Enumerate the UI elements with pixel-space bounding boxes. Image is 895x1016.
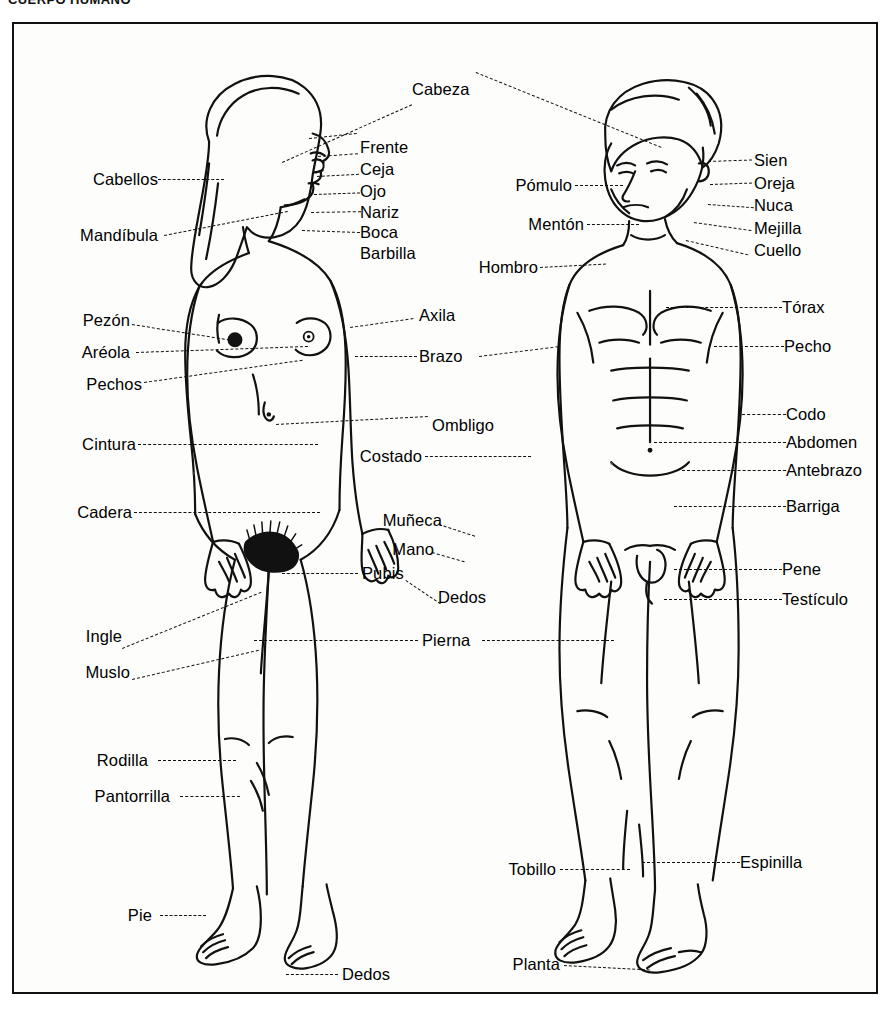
label-axila[interactable]: Axila (419, 307, 455, 324)
leader-torax (666, 307, 782, 308)
leader-cintura (138, 444, 318, 445)
label-planta[interactable]: Planta (513, 956, 560, 973)
label-mandibula[interactable]: Mandíbula (80, 227, 158, 244)
label-barriga[interactable]: Barriga (786, 498, 840, 515)
label-dedos-pie[interactable]: Dedos (342, 966, 390, 983)
leader-pierna-left (254, 640, 418, 641)
label-nuca[interactable]: Nuca (754, 197, 793, 214)
label-ojo[interactable]: Ojo (360, 183, 386, 200)
label-testiculo[interactable]: Testículo (782, 591, 848, 608)
leader-pubis (282, 573, 358, 574)
label-cabellos[interactable]: Cabellos (93, 171, 158, 188)
label-codo[interactable]: Codo (786, 406, 826, 423)
leader-rodilla (158, 760, 236, 761)
leader-antebrazo (682, 470, 786, 471)
label-cuello[interactable]: Cuello (754, 242, 801, 259)
label-pomulo[interactable]: Pómulo (515, 177, 572, 194)
label-pecho[interactable]: Pecho (784, 338, 831, 355)
label-pie[interactable]: Pie (128, 907, 152, 924)
label-muneca[interactable]: Muñeca (383, 512, 442, 529)
label-ingle[interactable]: Ingle (86, 628, 122, 645)
leader-codo (742, 414, 786, 415)
leader-pierna-right (482, 640, 614, 641)
leader-tobillo (560, 869, 630, 870)
label-barbilla[interactable]: Barbilla (360, 245, 416, 262)
label-cadera[interactable]: Cadera (77, 504, 132, 521)
diagram-frame: Cabeza Frente Ceja Ojo Nariz Boca Barbil… (12, 22, 878, 994)
label-nariz[interactable]: Nariz (360, 204, 399, 221)
label-torax[interactable]: Tórax (782, 299, 825, 316)
label-antebrazo[interactable]: Antebrazo (786, 462, 862, 479)
label-espinilla[interactable]: Espinilla (740, 854, 802, 871)
label-pechos[interactable]: Pechos (86, 376, 142, 393)
label-abdomen[interactable]: Abdomen (786, 434, 857, 451)
page-title: CUERPO HUMANO (8, 0, 131, 7)
label-costado[interactable]: Costado (360, 448, 422, 465)
label-pantorrilla[interactable]: Pantorrilla (95, 788, 170, 805)
leader-pomulo (575, 185, 623, 186)
leader-pecho (714, 346, 784, 347)
label-dedos-mano[interactable]: Dedos (438, 589, 486, 606)
paper-speck (610, 462, 613, 465)
leader-pantorrilla (180, 796, 240, 797)
label-mejilla[interactable]: Mejilla (754, 220, 801, 237)
leader-cadera (134, 512, 320, 513)
leader-brazo (355, 356, 417, 357)
label-frente[interactable]: Frente (360, 139, 408, 156)
label-ombligo[interactable]: Ombligo (432, 417, 494, 434)
label-cabeza[interactable]: Cabeza (412, 81, 469, 98)
leader-abdomen (654, 442, 786, 443)
label-pene[interactable]: Pene (782, 561, 821, 578)
label-sien[interactable]: Sien (754, 152, 787, 169)
label-muslo[interactable]: Muslo (85, 664, 130, 681)
leader-barriga (674, 506, 786, 507)
label-cintura[interactable]: Cintura (82, 436, 136, 453)
label-rodilla[interactable]: Rodilla (97, 752, 148, 769)
leader-cabellos (158, 179, 224, 180)
label-pubis[interactable]: Pubis (362, 565, 404, 582)
paper-speck (192, 472, 195, 475)
leader-dedos-pie (286, 974, 338, 975)
label-brazo[interactable]: Brazo (419, 348, 463, 365)
label-mano[interactable]: Mano (392, 541, 434, 558)
label-oreja[interactable]: Oreja (754, 175, 795, 192)
leader-costado (425, 456, 531, 457)
label-ceja[interactable]: Ceja (360, 161, 394, 178)
label-tobillo[interactable]: Tobillo (509, 861, 556, 878)
label-pierna[interactable]: Pierna (422, 632, 470, 649)
label-areola[interactable]: Aréola (82, 344, 130, 361)
leader-menton (587, 224, 639, 225)
label-hombro[interactable]: Hombro (479, 259, 538, 276)
leader-espinilla (642, 862, 740, 863)
label-boca[interactable]: Boca (360, 224, 398, 241)
leader-pie (160, 915, 206, 916)
leader-pene (674, 569, 782, 570)
leader-testiculo (664, 599, 782, 600)
label-pezon[interactable]: Pezón (83, 312, 130, 329)
label-menton[interactable]: Mentón (528, 216, 584, 233)
